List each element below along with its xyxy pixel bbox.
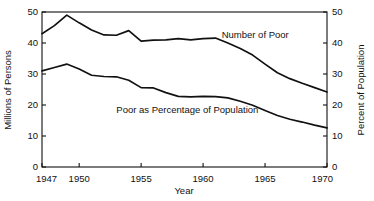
x-axis-tick-labels: 194719501955196019651970 (36, 173, 333, 184)
x-tick-label: 1950 (69, 173, 90, 184)
y-tick-label: 50 (27, 6, 38, 17)
right-axis-ticks (323, 12, 327, 167)
y2-tick-label: 10 (332, 130, 343, 141)
y-tick-label: 30 (27, 68, 38, 79)
series-annotation-poor-percentage: Poor as Percentage of Population (116, 104, 258, 115)
y2-tick-label: 50 (332, 6, 343, 17)
x-tick-label: 1947 (36, 173, 57, 184)
left-axis-ticks (42, 12, 46, 167)
x-tick-label: 1970 (312, 173, 333, 184)
x-axis-ticks (42, 163, 327, 167)
y-tick-label: 40 (27, 37, 38, 48)
y-axis-title: Millions of Persons (2, 50, 13, 130)
y2-tick-label: 30 (332, 68, 343, 79)
y2-tick-label: 40 (332, 37, 343, 48)
right-axis-tick-labels: 01020304050 (332, 6, 343, 172)
series-annotation-number-of-poor: Number of Poor (222, 29, 289, 40)
x-tick-label: 1965 (254, 173, 275, 184)
y-tick-label: 20 (27, 99, 38, 110)
y2-tick-label: 20 (332, 99, 343, 110)
y-tick-label: 0 (33, 161, 38, 172)
poverty-line-chart: 01020304050 01020304050 1947195019551960… (0, 0, 374, 201)
y-tick-label: 10 (27, 130, 38, 141)
y2-axis-title: Percent of Population (355, 45, 366, 136)
x-axis-title: Year (174, 185, 193, 196)
series-line-poor-percentage (42, 64, 327, 128)
series-line-number-of-poor (42, 15, 327, 92)
y2-tick-label: 0 (332, 161, 337, 172)
left-axis-tick-labels: 01020304050 (27, 6, 38, 172)
x-tick-label: 1955 (131, 173, 152, 184)
x-tick-label: 1960 (193, 173, 214, 184)
chart-svg: 01020304050 01020304050 1947195019551960… (0, 0, 374, 201)
